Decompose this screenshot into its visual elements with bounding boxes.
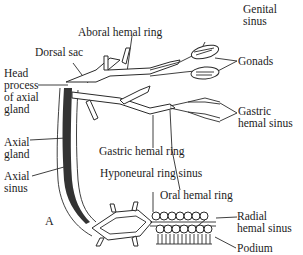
label-aboral-hemal-ring: Aboral hemal ring — [78, 26, 162, 38]
panel-label: A — [45, 215, 54, 227]
label-radial-hemal-sinus: Radial hemal sinus — [237, 210, 292, 234]
label-dorsal-sac: Dorsal sac — [35, 46, 83, 58]
label-genital-sinus: Genital sinus — [243, 3, 277, 27]
label-gonads: Gonads — [238, 55, 273, 67]
label-axial-sinus: Axial sinus — [4, 170, 30, 194]
hemal-system-diagram: Genital sinus Aboral hemal ring Dorsal s… — [0, 0, 303, 255]
label-axial-gland: Axial gland — [4, 136, 30, 160]
label-gastric-hemal-sinus: Gastric hemal sinus — [238, 105, 293, 129]
label-podium: Podium — [237, 242, 273, 254]
label-hyponeural-ring-sinus: Hyponeural ring sinus — [100, 167, 202, 179]
label-oral-hemal-ring: Oral hemal ring — [160, 189, 233, 201]
label-gastric-hemal-ring: Gastric hemal ring — [99, 145, 185, 157]
label-head-process-axial-gland: Head process of axial gland — [4, 67, 39, 115]
